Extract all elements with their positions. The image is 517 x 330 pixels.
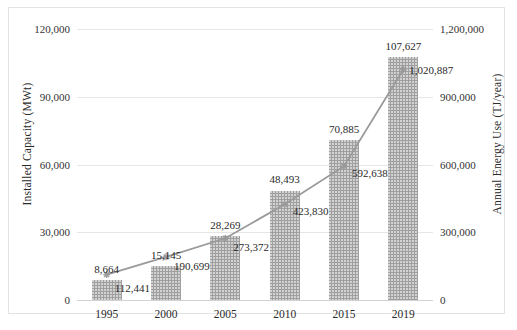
bar-data-label: 48,493 — [245, 174, 325, 185]
bar-data-label: 107,627 — [363, 41, 443, 52]
y-axis-left-tick-label: 90,000 — [40, 92, 70, 103]
chart-figure: Installed Capacity (MWt) Annual Energy U… — [0, 0, 517, 330]
bar-data-label: 15,145 — [126, 250, 206, 261]
y-axis-right-tick-label: 300,000 — [440, 227, 476, 238]
line-data-label: 273,372 — [233, 242, 269, 253]
y-axis-right-tick-label: 1,200,000 — [440, 24, 484, 35]
y-axis-left-tick-label: 0 — [65, 295, 71, 306]
y-axis-right-tick-label: 0 — [440, 295, 446, 306]
line-data-label: 423,830 — [293, 206, 329, 217]
gridline — [77, 165, 433, 166]
gridline — [77, 232, 433, 233]
y-axis-left-tick-label: 120,000 — [34, 24, 70, 35]
x-axis-tick-label: 2019 — [363, 309, 443, 321]
y-axis-right-tick-label: 600,000 — [440, 160, 476, 171]
gridline — [77, 29, 433, 30]
line-data-label: 112,441 — [115, 283, 150, 294]
y-axis-left-tick-label: 60,000 — [40, 160, 70, 171]
bar-data-label: 8,664 — [67, 264, 147, 275]
chart-frame: Installed Capacity (MWt) Annual Energy U… — [8, 7, 505, 314]
line-data-label: 1,020,887 — [409, 65, 453, 76]
y-axis-left-tick-label: 30,000 — [40, 227, 70, 238]
y-axis-right-title: Annual Energy Use (TJ/year) — [491, 54, 503, 234]
bar-data-label: 70,885 — [304, 124, 384, 135]
bar-data-label: 28,269 — [185, 220, 265, 231]
gridline — [77, 97, 433, 98]
bar — [388, 57, 418, 300]
y-axis-left-title: Installed Capacity (MWt) — [21, 54, 33, 234]
bar — [329, 140, 359, 300]
plot-area: 030,00060,00090,000120,000 0300,000600,0… — [77, 29, 433, 300]
line-data-label: 190,699 — [174, 261, 210, 272]
y-axis-right-tick-label: 900,000 — [440, 92, 476, 103]
gridline — [77, 300, 433, 301]
line-data-label: 592,638 — [352, 168, 388, 179]
